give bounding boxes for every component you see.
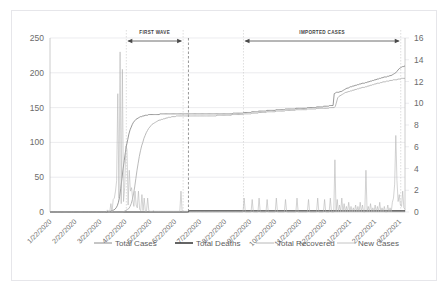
annotation-arrowhead-left-imported-cases [244, 39, 249, 43]
annotation-arrowhead-left-first-wave [127, 39, 132, 43]
chart-plot-area: 05010015020025002468101214161/22/20202/2… [26, 30, 424, 248]
y-axis-left-tick-100: 100 [30, 137, 44, 147]
legend-label-total-cases: Total Cases [115, 239, 157, 248]
y-axis-right-tick-0: 0 [414, 207, 419, 217]
y-axis-right-tick-12: 12 [414, 77, 424, 87]
legend-label-total-deaths: Total Deaths [196, 239, 240, 248]
y-axis-right-tick-14: 14 [414, 55, 424, 65]
series-line-total-cases [50, 66, 405, 212]
y-axis-right-tick-4: 4 [414, 164, 419, 174]
annotation-label-first-wave: FIRST WAVE [139, 30, 170, 35]
x-axis-tick-label: 2/22/2020 [51, 218, 78, 245]
y-axis-left-tick-50: 50 [35, 172, 45, 182]
series-line-total-recovered [50, 78, 405, 212]
legend-label-new-cases: New Cases [358, 239, 399, 248]
x-axis-tick-label: 1/22/2020 [26, 218, 53, 245]
legend-label-total-recovered: Total Recovered [277, 239, 335, 248]
y-axis-left-tick-200: 200 [30, 68, 44, 78]
covid-timeseries-chart: 05010015020025002468101214161/22/20202/2… [12, 11, 438, 282]
y-axis-right-tick-6: 6 [414, 142, 419, 152]
y-axis-right-tick-16: 16 [414, 33, 424, 43]
y-axis-left-tick-0: 0 [39, 207, 44, 217]
series-line-new-cases [50, 52, 405, 212]
y-axis-right-tick-2: 2 [414, 185, 419, 195]
annotation-arrowhead-right-imported-cases [395, 39, 400, 43]
y-axis-right-tick-10: 10 [414, 98, 424, 108]
y-axis-left-tick-250: 250 [30, 33, 44, 43]
annotation-arrowhead-right-first-wave [177, 39, 182, 43]
x-axis-tick-label: 3/22/2020 [76, 218, 103, 245]
y-axis-right-tick-8: 8 [414, 120, 419, 130]
y-axis-left-tick-150: 150 [30, 103, 44, 113]
chart-card: 05010015020025002468101214161/22/20202/2… [11, 10, 437, 281]
annotation-label-imported-cases: IMPORTED CASES [299, 30, 345, 35]
